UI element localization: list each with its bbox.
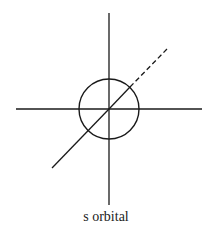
s-orbital-diagram (0, 0, 212, 239)
diagonal-axis-dashed (130, 49, 167, 87)
diagonal-axis-solid-inner (109, 87, 130, 109)
caption: s orbital (0, 209, 212, 225)
